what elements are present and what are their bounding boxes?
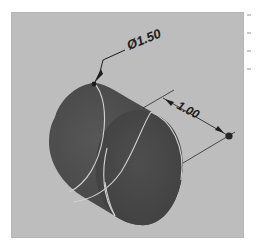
leader-arrow-icon	[95, 69, 103, 82]
extension-line-back	[143, 90, 174, 108]
cad-viewport[interactable]: Ø1.50 1.00	[11, 12, 244, 238]
arrow-start-icon	[165, 99, 174, 106]
cropped-margin-marks	[247, 14, 255, 94]
arrow-end-icon	[215, 126, 224, 133]
cylinder-model-drawing: Ø1.50 1.00	[11, 12, 244, 238]
cylinder-body[interactable]	[49, 83, 183, 225]
diameter-dimension[interactable]: Ø1.50	[92, 25, 164, 86]
dimension-end-marker	[225, 132, 232, 139]
diameter-dimension-text[interactable]: Ø1.50	[125, 25, 164, 52]
